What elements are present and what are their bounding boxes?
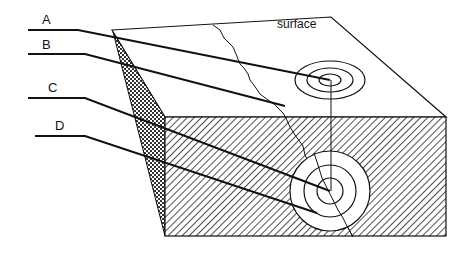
label-a: A [42,12,51,27]
surface-label: surface [277,17,316,31]
label-c: C [48,80,57,95]
surface-face [112,17,446,117]
label-b: B [42,37,51,52]
earthquake-block-diagram [0,0,469,253]
label-d: D [55,118,64,133]
